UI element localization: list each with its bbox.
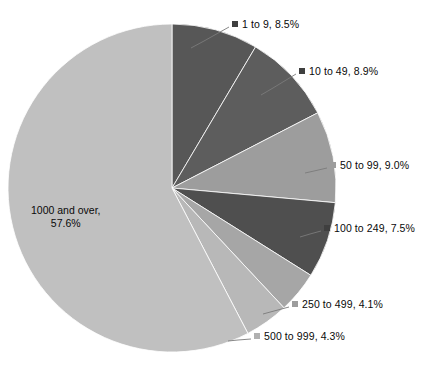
pie-chart-figure: 1 to 9, 8.5%10 to 49, 8.9%50 to 99, 9.0%… (0, 0, 435, 368)
pie-slice-label-text: 100 to 249, 7.5% (334, 222, 415, 234)
pie-slice-label: 1 to 9, 8.5% (232, 18, 299, 30)
pie-slice-inner-label: 1000 and over,57.6% (31, 204, 100, 230)
pie-slice-label-text: 10 to 49, 8.9% (309, 65, 378, 77)
pie-slice-label: 10 to 49, 8.9% (299, 65, 378, 77)
legend-swatch-icon (254, 333, 260, 339)
legend-swatch-icon (299, 68, 305, 74)
pie-slice-label-text: 50 to 99, 9.0% (340, 159, 409, 171)
legend-swatch-icon (232, 21, 238, 27)
pie-slice-label-text: 1000 and over, (31, 204, 100, 217)
pie-slice-label-value: 57.6% (31, 217, 100, 230)
pie-slice-label: 500 to 999, 4.3% (254, 330, 345, 342)
pie-slice-label: 250 to 499, 4.1% (292, 298, 383, 310)
legend-swatch-icon (330, 162, 336, 168)
pie-slice-label: 100 to 249, 7.5% (324, 222, 415, 234)
legend-swatch-icon (324, 225, 330, 231)
pie-slice-label-text: 500 to 999, 4.3% (264, 330, 345, 342)
pie-slice-label-text: 1 to 9, 8.5% (242, 18, 299, 30)
pie-slice-label: 50 to 99, 9.0% (330, 159, 409, 171)
pie-slice-group (8, 24, 336, 352)
pie-chart-canvas (0, 0, 435, 368)
pie-slice-label-text: 250 to 499, 4.1% (302, 298, 383, 310)
legend-swatch-icon (292, 301, 298, 307)
